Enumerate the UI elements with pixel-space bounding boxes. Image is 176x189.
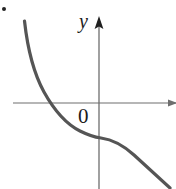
y-axis-label: y: [79, 11, 88, 31]
plot-canvas: [0, 0, 176, 189]
decreasing-cubic-curve: [25, 21, 171, 188]
origin-label: 0: [78, 106, 89, 127]
x-axis-arrow-icon: [168, 100, 176, 107]
math-figure: y 0: [0, 0, 176, 189]
